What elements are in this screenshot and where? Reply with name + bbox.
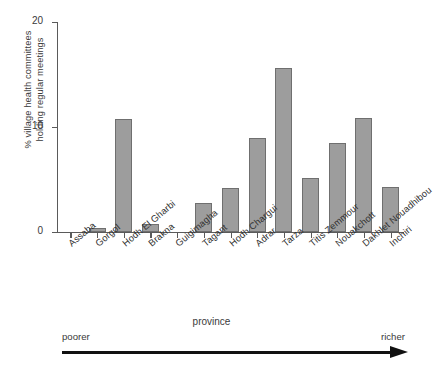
y-axis-line (57, 22, 58, 233)
y-axis-tick-label: 20 (32, 15, 43, 26)
annotation-poorer: poorer (62, 331, 90, 342)
x-axis-title: province (0, 316, 423, 327)
y-axis-tick-label: 0 (37, 225, 43, 236)
annotation-richer: richer (381, 331, 405, 342)
y-axis-title-line2: holding regular meetings (34, 0, 46, 190)
arrow-line (62, 351, 392, 354)
bar (302, 178, 319, 232)
y-axis-tick: 0 (52, 232, 57, 233)
y-axis-tick: 10 (52, 127, 57, 128)
wealth-gradient-arrow (62, 347, 410, 361)
bar (115, 119, 132, 232)
y-axis-title: % village health committees holding regu… (23, 0, 46, 190)
y-axis-tick-label: 10 (32, 120, 43, 131)
bar (275, 68, 292, 232)
y-axis-title-line1: % village health committees (23, 0, 35, 190)
y-axis-tick: 20 (52, 22, 57, 23)
arrow-head-icon (390, 346, 408, 358)
